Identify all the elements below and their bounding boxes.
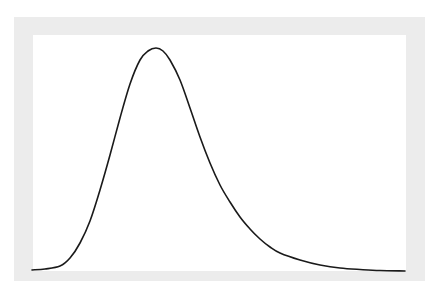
chart-svg xyxy=(0,0,441,294)
density-curve xyxy=(32,48,405,271)
